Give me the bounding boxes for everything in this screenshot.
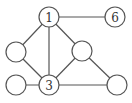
- node-1: 1: [39, 7, 59, 27]
- node-circle: [72, 41, 92, 61]
- node-label: 3: [45, 79, 53, 93]
- node-6: 6: [105, 7, 125, 27]
- node-nRM: [72, 41, 92, 61]
- node-label: 1: [45, 11, 53, 25]
- edges: [16, 17, 117, 85]
- node-nLM: [6, 42, 26, 62]
- node-nBR: [107, 75, 127, 95]
- node-circle: [6, 75, 26, 95]
- node-3: 3: [39, 75, 59, 95]
- node-circle: [6, 42, 26, 62]
- graph-diagram: 163: [0, 0, 132, 103]
- node-nBL: [6, 75, 26, 95]
- nodes: 163: [6, 7, 127, 95]
- node-label: 6: [111, 11, 119, 25]
- node-circle: [107, 75, 127, 95]
